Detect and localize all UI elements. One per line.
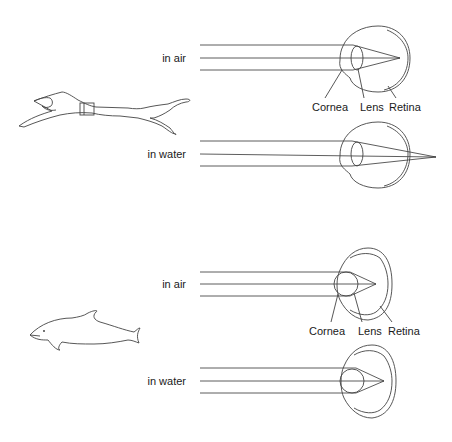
dolphin-in-air-label: in air [140, 278, 186, 290]
dolphin-in-water-label: in water [130, 375, 186, 387]
dolphin-eye-air [331, 248, 392, 322]
diagram-drawing [0, 0, 452, 442]
human-lens-label: Lens [360, 101, 384, 113]
human-eye-water [340, 122, 410, 188]
eye-focus-diagram: in air in water Cornea Lens Retina in ai… [0, 0, 452, 442]
dolphin-lens-label: Lens [358, 325, 382, 337]
human-retina-label: Retina [389, 101, 421, 113]
human-air-rays [200, 45, 400, 70]
dolphin-water-rays [200, 368, 384, 393]
human-in-air-label: in air [140, 52, 186, 64]
human-eye-air [325, 26, 410, 98]
human-cornea-label: Cornea [312, 101, 348, 113]
swimmer-illustration [19, 92, 190, 135]
dolphin-eye-water [340, 345, 396, 418]
dolphin-air-rays [200, 272, 376, 296]
dolphin-illustration [30, 311, 140, 350]
human-water-rays [200, 141, 436, 166]
human-in-water-label: in water [130, 148, 186, 160]
dolphin-retina-label: Retina [388, 325, 420, 337]
dolphin-cornea-label: Cornea [309, 325, 345, 337]
